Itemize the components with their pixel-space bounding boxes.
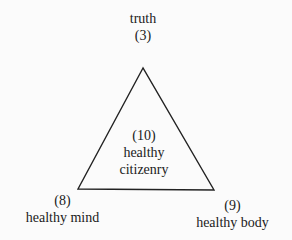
center-line1: healthy	[108, 144, 180, 161]
bottom-left-number: (8)	[10, 192, 115, 209]
center-label: (10) healthy citizenry	[108, 127, 180, 178]
top-number: (3)	[113, 27, 173, 44]
bottom-right-vertex-label: (9) healthy body	[180, 197, 285, 231]
center-line2: citizenry	[108, 161, 180, 178]
bottom-right-number: (9)	[180, 197, 285, 214]
bottom-left-vertex-label: (8) healthy mind	[10, 192, 115, 226]
bottom-right-label: healthy body	[180, 214, 285, 231]
top-vertex-label: truth (3)	[113, 10, 173, 44]
bottom-left-label: healthy mind	[10, 209, 115, 226]
top-label: truth	[113, 10, 173, 27]
center-number: (10)	[108, 127, 180, 144]
